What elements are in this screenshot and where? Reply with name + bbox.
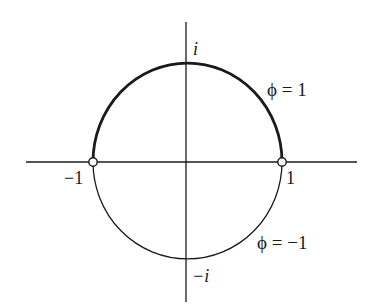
unit-circle-diagram: i −i −1 1 ϕ = 1 ϕ = −1 — [0, 0, 375, 306]
label-neg-one: −1 — [64, 168, 83, 188]
minus-one-point — [89, 158, 97, 166]
plus-one-point — [278, 158, 286, 166]
label-phi-minus-one: ϕ = −1 — [257, 232, 307, 253]
label-neg-i: −i — [192, 266, 209, 286]
label-i: i — [193, 39, 198, 59]
label-one: 1 — [286, 168, 295, 188]
upper-arc-phi-one — [93, 63, 282, 162]
lower-arc-phi-minus-one — [93, 162, 282, 259]
label-phi-one: ϕ = 1 — [267, 79, 307, 100]
